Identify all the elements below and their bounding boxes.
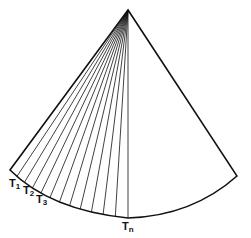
fan-line [32,10,128,188]
label-t1: T1 [9,178,20,191]
label-t3: T3 [36,194,47,207]
fan-line [41,10,128,193]
fan-line [80,10,128,209]
label-tn: Tn [122,221,134,234]
fan-line [17,10,128,176]
label-t2: T2 [23,185,34,198]
fan-line [70,10,128,206]
